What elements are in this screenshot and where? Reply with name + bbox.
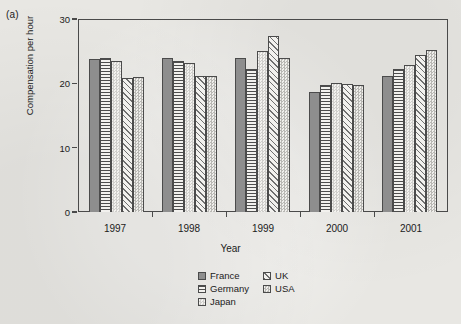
legend-label-uk: UK bbox=[275, 270, 288, 281]
y-axis-ticks: 0102030 bbox=[48, 0, 70, 324]
x-tick-mark-3 bbox=[300, 212, 301, 217]
bar-uk-1998 bbox=[195, 76, 206, 212]
x-tick-mark-2 bbox=[226, 212, 227, 217]
panel-label: (a) bbox=[6, 9, 19, 20]
legend-item-japan: Japan bbox=[198, 296, 249, 307]
legend-swatch-uk bbox=[263, 272, 271, 280]
bar-japan-2001 bbox=[404, 65, 415, 212]
y-tick-label-0: 0 bbox=[48, 207, 70, 218]
bar-group-1997 bbox=[89, 19, 144, 212]
x-tick-label-1997: 1997 bbox=[95, 223, 135, 234]
bar-uk-2000 bbox=[342, 84, 353, 212]
y-tick-mark-0 bbox=[72, 211, 77, 212]
legend-item-germany: Germany bbox=[198, 283, 249, 294]
bar-france-1999 bbox=[235, 58, 246, 212]
bar-group-2001 bbox=[382, 19, 437, 212]
y-tick-label-20: 20 bbox=[48, 78, 70, 89]
bar-germany-1999 bbox=[246, 69, 257, 212]
x-tick-mark-4 bbox=[374, 212, 375, 217]
y-tick-label-10: 10 bbox=[48, 142, 70, 153]
legend-label-germany: Germany bbox=[210, 283, 249, 294]
bar-group-1999 bbox=[235, 19, 290, 212]
bar-france-2001 bbox=[382, 76, 393, 212]
y-tick-mark-10 bbox=[72, 147, 77, 148]
legend-item-france: France bbox=[198, 270, 249, 281]
bar-uk-1999 bbox=[268, 36, 279, 212]
x-tick-label-1998: 1998 bbox=[169, 223, 209, 234]
bar-uk-2001 bbox=[415, 55, 426, 212]
bar-japan-1999 bbox=[257, 51, 268, 212]
legend-label-france: France bbox=[210, 270, 240, 281]
bar-japan-2000 bbox=[331, 83, 342, 212]
x-tick-label-1999: 1999 bbox=[243, 223, 283, 234]
legend-swatch-germany bbox=[198, 285, 206, 293]
y-tick-label-30: 30 bbox=[48, 14, 70, 25]
bar-usa-2000 bbox=[353, 85, 364, 212]
bar-usa-1998 bbox=[206, 76, 217, 212]
x-axis-title: Year bbox=[0, 243, 461, 254]
plot-area bbox=[78, 19, 448, 212]
legend-label-japan: Japan bbox=[210, 296, 236, 307]
bar-germany-1997 bbox=[100, 58, 111, 212]
bar-france-1997 bbox=[89, 59, 100, 212]
bar-france-1998 bbox=[162, 58, 173, 212]
bar-germany-1998 bbox=[173, 61, 184, 212]
y-tick-mark-20 bbox=[72, 83, 77, 84]
y-axis-title: Compensation per hour bbox=[24, 1, 35, 131]
bar-japan-1998 bbox=[184, 63, 195, 212]
legend-item-usa: USA bbox=[263, 283, 295, 294]
bar-usa-2001 bbox=[426, 50, 437, 212]
legend-swatch-france bbox=[198, 272, 206, 280]
bar-group-1998 bbox=[162, 19, 217, 212]
legend-label-usa: USA bbox=[275, 283, 295, 294]
bar-group-2000 bbox=[309, 19, 364, 212]
x-tick-mark-1 bbox=[152, 212, 153, 217]
y-tick-mark-30 bbox=[72, 18, 77, 19]
x-tick-label-2001: 2001 bbox=[391, 223, 431, 234]
legend-item-uk: UK bbox=[263, 270, 295, 281]
bar-uk-1997 bbox=[122, 78, 133, 212]
chart-legend: FranceUKGermanyUSAJapan bbox=[198, 270, 295, 307]
bar-france-2000 bbox=[309, 92, 320, 212]
bar-japan-1997 bbox=[111, 61, 122, 212]
bar-germany-2001 bbox=[393, 69, 404, 212]
legend-swatch-usa bbox=[263, 285, 271, 293]
x-tick-label-2000: 2000 bbox=[317, 223, 357, 234]
bar-usa-1999 bbox=[279, 58, 290, 212]
bar-germany-2000 bbox=[320, 85, 331, 212]
legend-swatch-japan bbox=[198, 298, 206, 306]
bar-usa-1997 bbox=[133, 77, 144, 212]
